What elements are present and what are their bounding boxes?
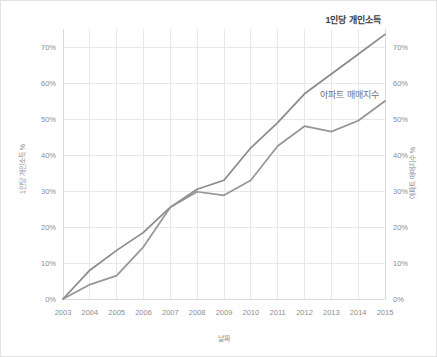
y-tick-label-right: 60%	[393, 79, 408, 88]
y-tick-label-left: 30%	[41, 187, 56, 196]
y-tick-label-left: 0%	[45, 295, 56, 304]
series-label-1: 1인당 개인소득	[325, 14, 381, 25]
x-tick-label: 2008	[189, 308, 206, 317]
y-tick-label-right: 40%	[393, 151, 408, 160]
y-tick-label-right: 70%	[393, 43, 408, 52]
y-axis-left-title: 1인당 개인소득 %	[18, 144, 27, 194]
x-tick-label: 2013	[323, 308, 340, 317]
x-tick-label: 2010	[242, 308, 259, 317]
x-axis-ticks: 2003200420052006200720082009201020112012…	[55, 308, 394, 317]
y-tick-label-left: 20%	[41, 223, 56, 232]
y-tick-label-right: 50%	[393, 115, 408, 124]
y-axis-right-ticks: 0%10%20%30%40%50%60%70%	[393, 43, 408, 304]
x-tick-label: 2007	[162, 308, 179, 317]
x-tick-label: 2012	[296, 308, 313, 317]
y-axis-left-ticks: 0%10%20%30%40%50%60%70%	[41, 43, 56, 304]
series-label-2: 아파트 매매지수	[320, 90, 379, 100]
y-tick-label-left: 60%	[41, 79, 56, 88]
x-axis-title: 날짜	[218, 334, 231, 343]
x-tick-label: 2003	[55, 308, 72, 317]
x-tick-label: 2011	[270, 308, 286, 317]
chart-frame: 0%10%20%30%40%50%60%70% 0%10%20%30%40%50…	[0, 0, 437, 357]
y-tick-label-left: 50%	[41, 115, 56, 124]
x-tick-label: 2014	[350, 308, 367, 317]
y-tick-label-right: 10%	[393, 259, 408, 268]
y-tick-label-left: 40%	[41, 151, 56, 160]
y-tick-label-left: 70%	[41, 43, 56, 52]
x-tick-label: 2015	[377, 308, 394, 317]
x-tick-label: 2004	[81, 308, 98, 317]
x-tick-label: 2009	[216, 308, 233, 317]
x-tick-label: 2006	[135, 308, 152, 317]
y-axis-right-title: 아파트 매매지수 %	[408, 147, 417, 199]
y-tick-label-right: 20%	[393, 223, 408, 232]
y-tick-label-right: 30%	[393, 187, 408, 196]
y-tick-label-left: 10%	[41, 259, 56, 268]
y-tick-label-right: 0%	[393, 295, 404, 304]
line-chart: 0%10%20%30%40%50%60%70% 0%10%20%30%40%50…	[1, 1, 437, 357]
x-tick-label: 2005	[108, 308, 125, 317]
